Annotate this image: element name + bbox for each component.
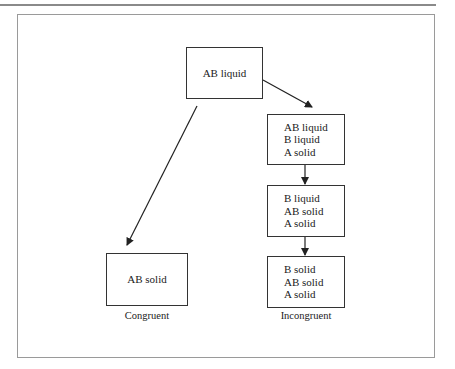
box2-line1: B liquid (284, 192, 344, 205)
box2-line3: A solid (284, 217, 344, 230)
box1-line2: B liquid (284, 133, 344, 146)
box2-line2: AB solid (284, 205, 344, 218)
box3-line1: B solid (284, 263, 344, 276)
ab-solid-box: AB solid (106, 253, 188, 306)
incongruent-box-2: B liquid AB solid A solid (267, 185, 345, 237)
box1-line3: A solid (284, 146, 344, 159)
box1-line1: AB liquid (284, 121, 344, 134)
ab-solid-label: AB solid (127, 273, 166, 286)
box3-line3: A solid (284, 288, 344, 301)
box3-line2: AB solid (284, 276, 344, 289)
incongruent-box-1: AB liquid B liquid A solid (267, 114, 345, 165)
ab-liquid-box: AB liquid (186, 47, 263, 99)
congruent-caption: Congruent (97, 310, 197, 321)
incongruent-box-3: B solid AB solid A solid (267, 256, 345, 308)
incongruent-caption: Incongruent (256, 310, 356, 321)
arrow-to-incongruent (263, 80, 312, 107)
arrow-to-congruent (127, 106, 197, 245)
ab-liquid-label: AB liquid (203, 67, 247, 80)
